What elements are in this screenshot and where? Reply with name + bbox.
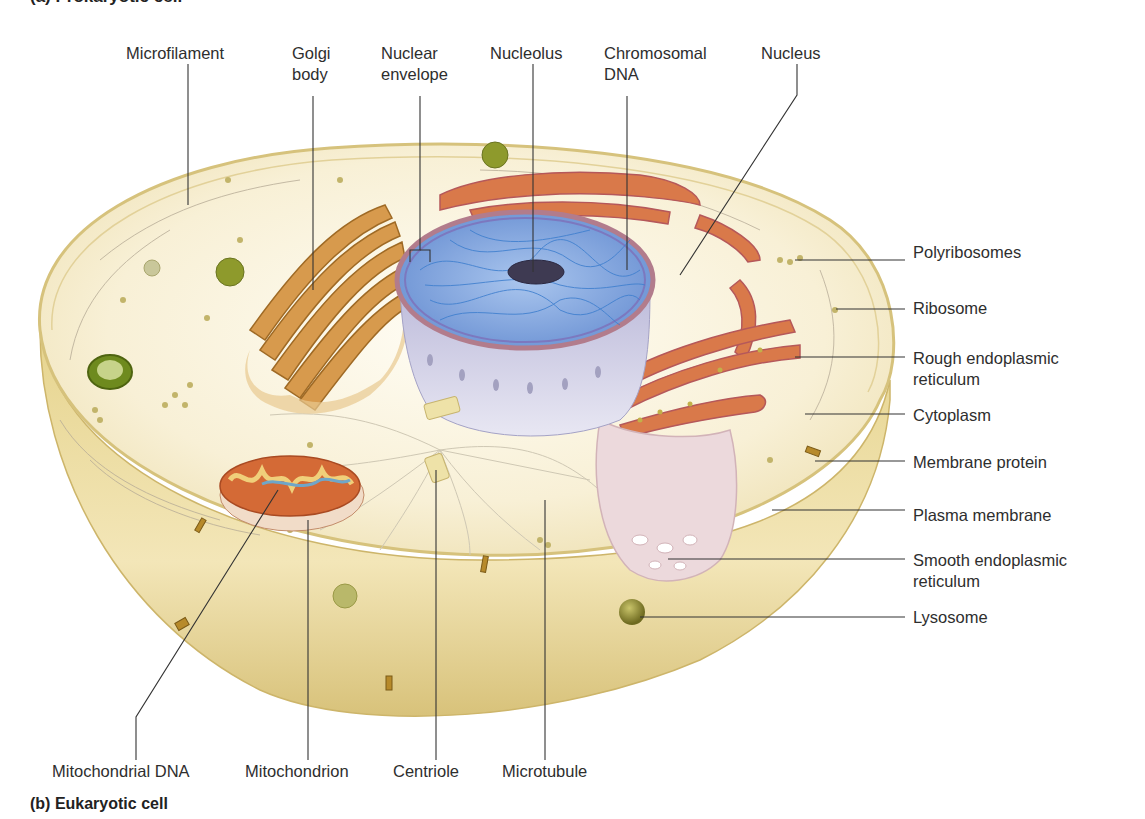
label-microfilament: Microfilament: [126, 43, 224, 64]
label-polyribosomes: Polyribosomes: [913, 242, 1021, 263]
label-rough-er-line1: Rough endoplasmic: [913, 348, 1059, 369]
label-chromosomal-dna-line2: DNA: [604, 64, 707, 85]
label-ribosome: Ribosome: [913, 298, 987, 319]
label-cytoplasm: Cytoplasm: [913, 405, 991, 426]
label-mitochondrion: Mitochondrion: [245, 761, 349, 782]
label-nuclear-envelope: Nuclear envelope: [381, 43, 448, 85]
label-centriole: Centriole: [393, 761, 459, 782]
label-golgi-body: Golgi body: [292, 43, 331, 85]
label-rough-er: Rough endoplasmic reticulum: [913, 348, 1059, 390]
vesicle: [216, 258, 244, 286]
label-nuclear-envelope-line1: Nuclear: [381, 43, 448, 64]
label-golgi-line2: body: [292, 64, 331, 85]
nucleolus: [508, 260, 564, 284]
vesicle: [144, 260, 160, 276]
label-golgi-line1: Golgi: [292, 43, 331, 64]
label-nucleus: Nucleus: [761, 43, 821, 64]
label-plasma-membrane: Plasma membrane: [913, 505, 1051, 526]
label-chromosomal-dna-line1: Chromosomal: [604, 43, 707, 64]
label-nuclear-envelope-line2: envelope: [381, 64, 448, 85]
label-mitochondrial-dna: Mitochondrial DNA: [52, 761, 190, 782]
vesicle: [482, 142, 508, 168]
label-membrane-protein: Membrane protein: [913, 452, 1047, 473]
label-smooth-er: Smooth endoplasmic reticulum: [913, 550, 1067, 592]
label-lysosome: Lysosome: [913, 607, 988, 628]
label-chromosomal-dna: Chromosomal DNA: [604, 43, 707, 85]
label-rough-er-line2: reticulum: [913, 369, 1059, 390]
label-smooth-er-line2: reticulum: [913, 571, 1067, 592]
figure-caption: (b) Eukaryotic cell: [30, 795, 168, 813]
label-nucleolus: Nucleolus: [490, 43, 562, 64]
label-microtubule: Microtubule: [502, 761, 587, 782]
mitochondrion: [220, 456, 364, 531]
lysosome: [619, 599, 645, 625]
vesicle: [333, 584, 357, 608]
label-smooth-er-line1: Smooth endoplasmic: [913, 550, 1067, 571]
